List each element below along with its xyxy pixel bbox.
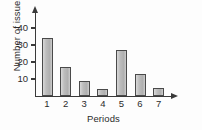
y-axis-arrow-icon [32, 6, 38, 13]
bar [153, 88, 164, 97]
bar [60, 67, 71, 96]
x-tick-label: 7 [150, 99, 168, 109]
plot-area: 10203040 1234567 [0, 0, 202, 130]
bar [97, 89, 108, 96]
y-tick-label: 40 [6, 23, 28, 33]
x-axis-title: Periods [35, 113, 172, 124]
y-tick-label: 20 [6, 57, 28, 67]
bar [116, 50, 127, 96]
bar [79, 81, 90, 96]
y-tick-mark [31, 61, 36, 62]
y-tick-mark [31, 27, 36, 28]
bar [42, 38, 53, 96]
x-tick-label: 2 [57, 99, 75, 109]
x-axis-arrow-icon [171, 93, 178, 99]
x-tick-label: 1 [38, 99, 56, 109]
bar [135, 74, 146, 96]
x-tick-label: 3 [75, 99, 93, 109]
x-tick-label: 5 [112, 99, 130, 109]
bar-chart: Number of issues 10203040 1234567 Period… [0, 0, 202, 130]
y-tick-mark [31, 44, 36, 45]
y-tick-label: 30 [6, 40, 28, 50]
x-tick-label: 6 [131, 99, 149, 109]
y-tick-label: 10 [6, 74, 28, 84]
x-tick-label: 4 [94, 99, 112, 109]
y-axis-line [35, 12, 36, 97]
y-tick-mark [31, 78, 36, 79]
